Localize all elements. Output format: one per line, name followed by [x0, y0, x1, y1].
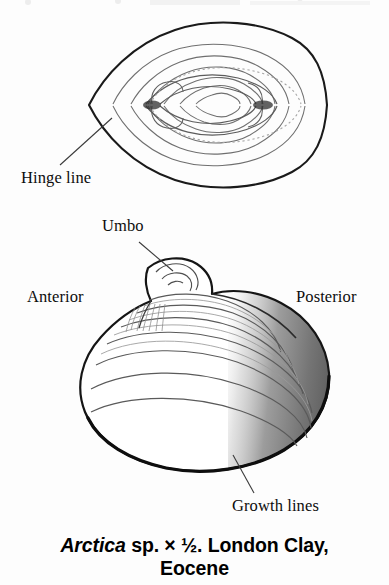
dorsal-growth-lines-lower	[113, 106, 305, 166]
dorsal-dotted-arc	[150, 68, 301, 143]
caption-scale: ½	[181, 534, 197, 556]
shell-growth-lines	[91, 294, 312, 446]
caption-genus: Arctica	[60, 534, 125, 556]
posterior-shading	[228, 250, 343, 490]
dorsal-commissure-curves	[146, 75, 277, 135]
dorsal-growth-lines-upper	[113, 44, 305, 104]
caption-multiplier: ×	[164, 534, 181, 556]
caption-species: sp.	[126, 534, 165, 556]
figure-caption: Arctica sp. × ½. London Clay, Eocene	[0, 534, 389, 579]
shell-growth-lines-faint	[101, 299, 312, 421]
caption-epoch: Eocene	[160, 557, 229, 579]
label-posterior: Posterior	[296, 289, 356, 306]
umbo-whorls	[156, 264, 198, 291]
scan-bleed-artifact	[0, 0, 389, 14]
shell-outline	[80, 258, 329, 471]
label-hinge-line: Hinge line	[21, 170, 91, 187]
dorsal-umbo-swirls	[152, 82, 263, 129]
shell-body-fill	[80, 258, 329, 471]
anterior-crease	[139, 301, 151, 328]
label-umbo: Umbo	[102, 218, 144, 235]
dorsal-outline	[89, 23, 327, 188]
anterior-radial-striations	[126, 304, 165, 332]
ventral-margin-shadow	[88, 376, 329, 471]
hinge-line-leader	[60, 118, 112, 165]
growth-lines-leader	[233, 455, 254, 493]
bivalve-figure: Hinge line Umbo Anterior Posterior Growt…	[0, 0, 389, 585]
umbo-leader	[139, 242, 173, 271]
caption-locality: . London Clay,	[197, 534, 328, 556]
posterior-crest	[212, 294, 296, 338]
label-anterior: Anterior	[27, 289, 84, 306]
label-growth-lines: Growth lines	[232, 498, 319, 515]
